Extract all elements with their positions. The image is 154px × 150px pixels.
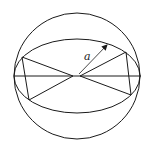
left-cone-section xyxy=(22,57,73,100)
sphere-diagram: a xyxy=(0,0,154,150)
radius-label: a xyxy=(84,50,91,63)
